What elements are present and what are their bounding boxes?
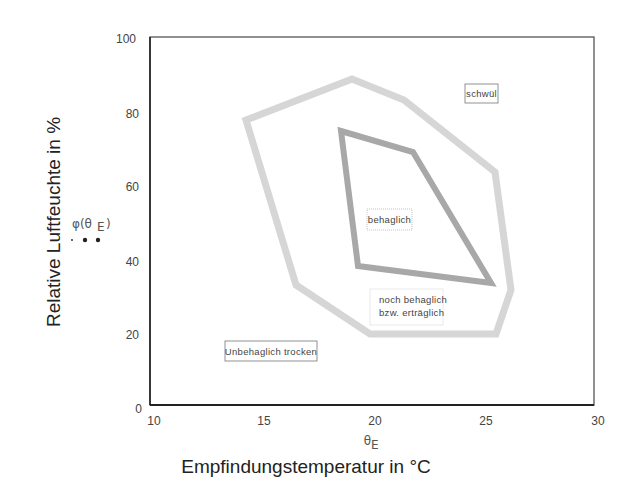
x-tick-10: 10 bbox=[147, 414, 161, 428]
zone-label-schwuel: schwül bbox=[466, 88, 497, 99]
y-axis-dot bbox=[83, 238, 87, 242]
zone-label-behaglich: behaglich bbox=[368, 214, 411, 225]
y-tick-80: 80 bbox=[126, 107, 140, 121]
x-tick-30: 30 bbox=[591, 414, 605, 428]
x-tick-25: 25 bbox=[479, 414, 493, 428]
x-tick-20: 20 bbox=[368, 414, 382, 428]
x-axis-symbol: θ bbox=[364, 434, 371, 448]
zone-label-unbehaglich-trocken: Unbehaglich trocken bbox=[225, 346, 317, 357]
y-axis-dot bbox=[96, 238, 100, 242]
y-axis-symbol-sub: E bbox=[97, 220, 105, 234]
y-tick-100: 100 bbox=[116, 32, 136, 46]
y-axis-dot bbox=[71, 239, 73, 241]
y-tick-40: 40 bbox=[126, 255, 140, 269]
y-axis-symbol: φ(θ bbox=[72, 217, 92, 231]
x-axis-title: Empfindungstemperatur in °C bbox=[181, 456, 430, 477]
y-tick-20: 20 bbox=[126, 328, 140, 342]
x-axis-symbol-sub: E bbox=[371, 438, 379, 452]
zone-label-noch-behaglich-line1: noch behaglich bbox=[379, 294, 447, 305]
y-tick-0: 0 bbox=[135, 402, 142, 416]
y-tick-60: 60 bbox=[126, 180, 140, 194]
x-tick-15: 15 bbox=[257, 414, 271, 428]
zone-label-noch-behaglich-line2: bzw. erträglich bbox=[379, 307, 444, 318]
chart: 100 80 60 40 20 0 10 15 20 25 30 θ E Emp… bbox=[0, 0, 629, 480]
y-axis-symbol-close: ) bbox=[106, 217, 111, 231]
y-axis-title: Relative Luftfeuchte in % bbox=[43, 117, 64, 327]
